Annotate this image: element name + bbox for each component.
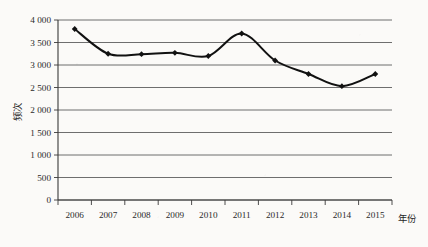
gridlines-group: [58, 20, 392, 200]
x-tick-label: 2014: [333, 210, 352, 220]
y-tick-label: 3 000: [30, 60, 51, 70]
y-tick-labels-group: 05001 0001 5002 0002 5003 0003 5004 000: [30, 15, 51, 205]
x-tick-label: 2011: [233, 210, 251, 220]
y-tick-label: 4 000: [30, 15, 51, 25]
data-point-marker: [172, 50, 178, 56]
x-tick-label: 2006: [66, 210, 85, 220]
data-point-marker: [139, 51, 145, 57]
x-tick-label: 2012: [266, 210, 285, 220]
data-point-marker: [105, 51, 111, 57]
line-chart: 05001 0001 5002 0002 5003 0003 5004 000 …: [0, 0, 428, 247]
y-tick-label: 2 000: [30, 105, 51, 115]
data-series-group: [75, 29, 376, 86]
y-tick-label: 0: [46, 195, 51, 205]
data-point-marker: [205, 53, 211, 59]
y-tick-label: 1 000: [30, 150, 51, 160]
x-tick-label: 2007: [99, 210, 118, 220]
data-point-marker: [339, 83, 345, 89]
x-tick-label: 2013: [299, 210, 318, 220]
series-line: [75, 29, 376, 86]
x-axis-title: 年份: [398, 213, 417, 224]
chart-canvas: 05001 0001 5002 0002 5003 0003 5004 000 …: [0, 0, 428, 247]
data-markers-group: [72, 26, 378, 89]
x-tick-labels-group: 2006200720082009201020112012201320142015: [66, 210, 385, 220]
y-tick-label: 1 500: [30, 128, 51, 138]
x-tick-label: 2009: [166, 210, 185, 220]
data-point-marker: [306, 71, 312, 77]
x-tick-label: 2010: [199, 210, 218, 220]
y-tick-label: 500: [37, 173, 51, 183]
y-axis-title: 频次: [12, 103, 23, 121]
data-point-marker: [372, 71, 378, 77]
y-tick-label: 3 500: [30, 38, 51, 48]
data-point-marker: [239, 31, 245, 37]
x-tick-label: 2008: [132, 210, 151, 220]
x-tick-label: 2015: [366, 210, 385, 220]
y-tick-label: 2 500: [30, 83, 51, 93]
